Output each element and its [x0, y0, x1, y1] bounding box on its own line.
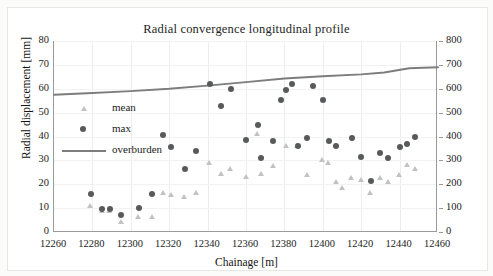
data-point-max	[295, 143, 301, 149]
y-axis-left-tick-label: 30	[5, 153, 49, 164]
data-point-mean	[243, 174, 249, 179]
legend-label-mean: mean	[112, 101, 136, 113]
data-point-max	[218, 103, 224, 109]
legend-key-overburden	[62, 142, 108, 158]
y-axis-right-tick-label: 700	[446, 58, 486, 69]
x-axis-title: Chainage [m]	[0, 256, 493, 268]
plot-area: mean max overburden	[53, 41, 437, 232]
data-point-mean	[304, 172, 310, 177]
data-point-mean	[348, 175, 354, 180]
data-point-max	[368, 178, 374, 184]
y-axis-right-tick-label: 400	[446, 130, 486, 141]
data-point-mean	[258, 171, 264, 176]
data-point-mean	[149, 214, 155, 219]
data-point-max	[88, 191, 94, 197]
data-point-mean	[367, 190, 373, 195]
data-point-mean	[160, 190, 166, 195]
y-axis-left-tick-label: 70	[5, 58, 49, 69]
legend-label-overburden: overburden	[112, 143, 162, 155]
y-axis-right-tick-mark	[439, 65, 443, 66]
data-point-mean	[270, 163, 276, 168]
y-axis-right-tick-mark	[439, 113, 443, 114]
data-point-max	[149, 191, 155, 197]
y-axis-right-tick-label: 200	[446, 177, 486, 188]
data-point-mean	[87, 203, 93, 208]
y-axis-right-tick-label: 600	[446, 82, 486, 93]
data-point-mean	[254, 131, 260, 136]
data-point-mean	[193, 190, 199, 195]
data-point-max	[136, 205, 142, 211]
data-point-mean	[333, 179, 339, 184]
chart-figure: Radial convergence longitudinal profile …	[0, 0, 493, 276]
data-point-max	[228, 86, 234, 92]
y-axis-left-tick-label: 20	[5, 177, 49, 188]
data-point-max	[412, 134, 418, 140]
data-point-max	[320, 97, 326, 103]
data-point-mean	[118, 219, 124, 224]
y-axis-right-tick-mark	[439, 208, 443, 209]
data-point-mean	[227, 166, 233, 171]
circle-marker-icon	[80, 126, 86, 132]
y-axis-left-tick-label: 10	[5, 201, 49, 212]
y-axis-right-tick-label: 500	[446, 106, 486, 117]
y-axis-right-tick-mark	[439, 184, 443, 185]
data-point-mean	[283, 143, 289, 148]
x-axis-tick-label: 12460	[407, 238, 467, 249]
data-point-max	[193, 148, 199, 154]
data-point-mean	[385, 179, 391, 184]
chart-title: Radial convergence longitudinal profile	[0, 22, 493, 37]
y-axis-left-tick-label: 40	[5, 130, 49, 141]
data-point-mean	[358, 177, 364, 182]
y-axis-right-tick-label: 800	[446, 34, 486, 45]
data-point-max	[404, 141, 410, 147]
y-axis-right-tick-mark	[439, 232, 443, 233]
y-axis-right-tick-label: 100	[446, 201, 486, 212]
legend-label-max: max	[112, 122, 131, 134]
y-axis-right-tick-mark	[439, 137, 443, 138]
data-point-mean	[396, 172, 402, 177]
data-point-max	[278, 97, 284, 103]
y-axis-left-tick-label: 50	[5, 106, 49, 117]
data-point-mean	[218, 171, 224, 176]
legend-key-max	[62, 121, 108, 137]
data-point-mean	[412, 166, 418, 171]
data-point-mean	[135, 214, 141, 219]
data-point-max	[182, 166, 188, 172]
data-point-mean	[404, 162, 410, 167]
y-axis-left-tick-label: 0	[5, 225, 49, 236]
y-axis-right-tick-mark	[439, 89, 443, 90]
data-point-mean	[168, 192, 174, 197]
data-point-mean	[181, 194, 187, 199]
data-point-max	[358, 154, 364, 160]
y-axis-right-tick-mark	[439, 160, 443, 161]
y-axis-right-tick-mark	[439, 41, 443, 42]
data-point-max	[397, 144, 403, 150]
data-point-mean	[325, 160, 331, 165]
data-point-max	[207, 81, 213, 87]
line-marker-icon	[62, 150, 106, 152]
data-point-max	[255, 122, 261, 128]
triangle-marker-icon	[81, 106, 87, 111]
y-axis-right-tick-label: 300	[446, 153, 486, 164]
data-point-max	[107, 206, 113, 212]
y-axis-right-tick-label: 0	[446, 225, 486, 236]
data-point-max	[326, 138, 332, 144]
data-point-mean	[206, 160, 212, 165]
legend-key-mean	[62, 100, 108, 116]
data-point-max	[349, 135, 355, 141]
data-point-mean	[339, 185, 345, 190]
data-point-mean	[377, 175, 383, 180]
y-axis-left-tick-label: 60	[5, 82, 49, 93]
y-axis-left-tick-label: 80	[5, 34, 49, 45]
